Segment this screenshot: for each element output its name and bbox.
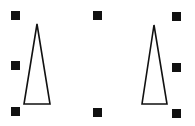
resize-handle-bottom-center[interactable] [93, 108, 102, 117]
triangle-right-shape[interactable] [142, 25, 167, 104]
drawing-canvas[interactable] [0, 0, 195, 126]
resize-handle-middle-left[interactable] [11, 61, 20, 70]
resize-handle-bottom-left[interactable] [11, 107, 20, 116]
resize-handle-top-right[interactable] [172, 12, 181, 21]
resize-handle-top-center[interactable] [93, 11, 102, 20]
resize-handle-top-left[interactable] [11, 11, 20, 20]
triangle-left-shape[interactable] [24, 24, 50, 104]
resize-handle-bottom-right[interactable] [172, 109, 181, 118]
resize-handle-middle-right[interactable] [172, 63, 181, 72]
